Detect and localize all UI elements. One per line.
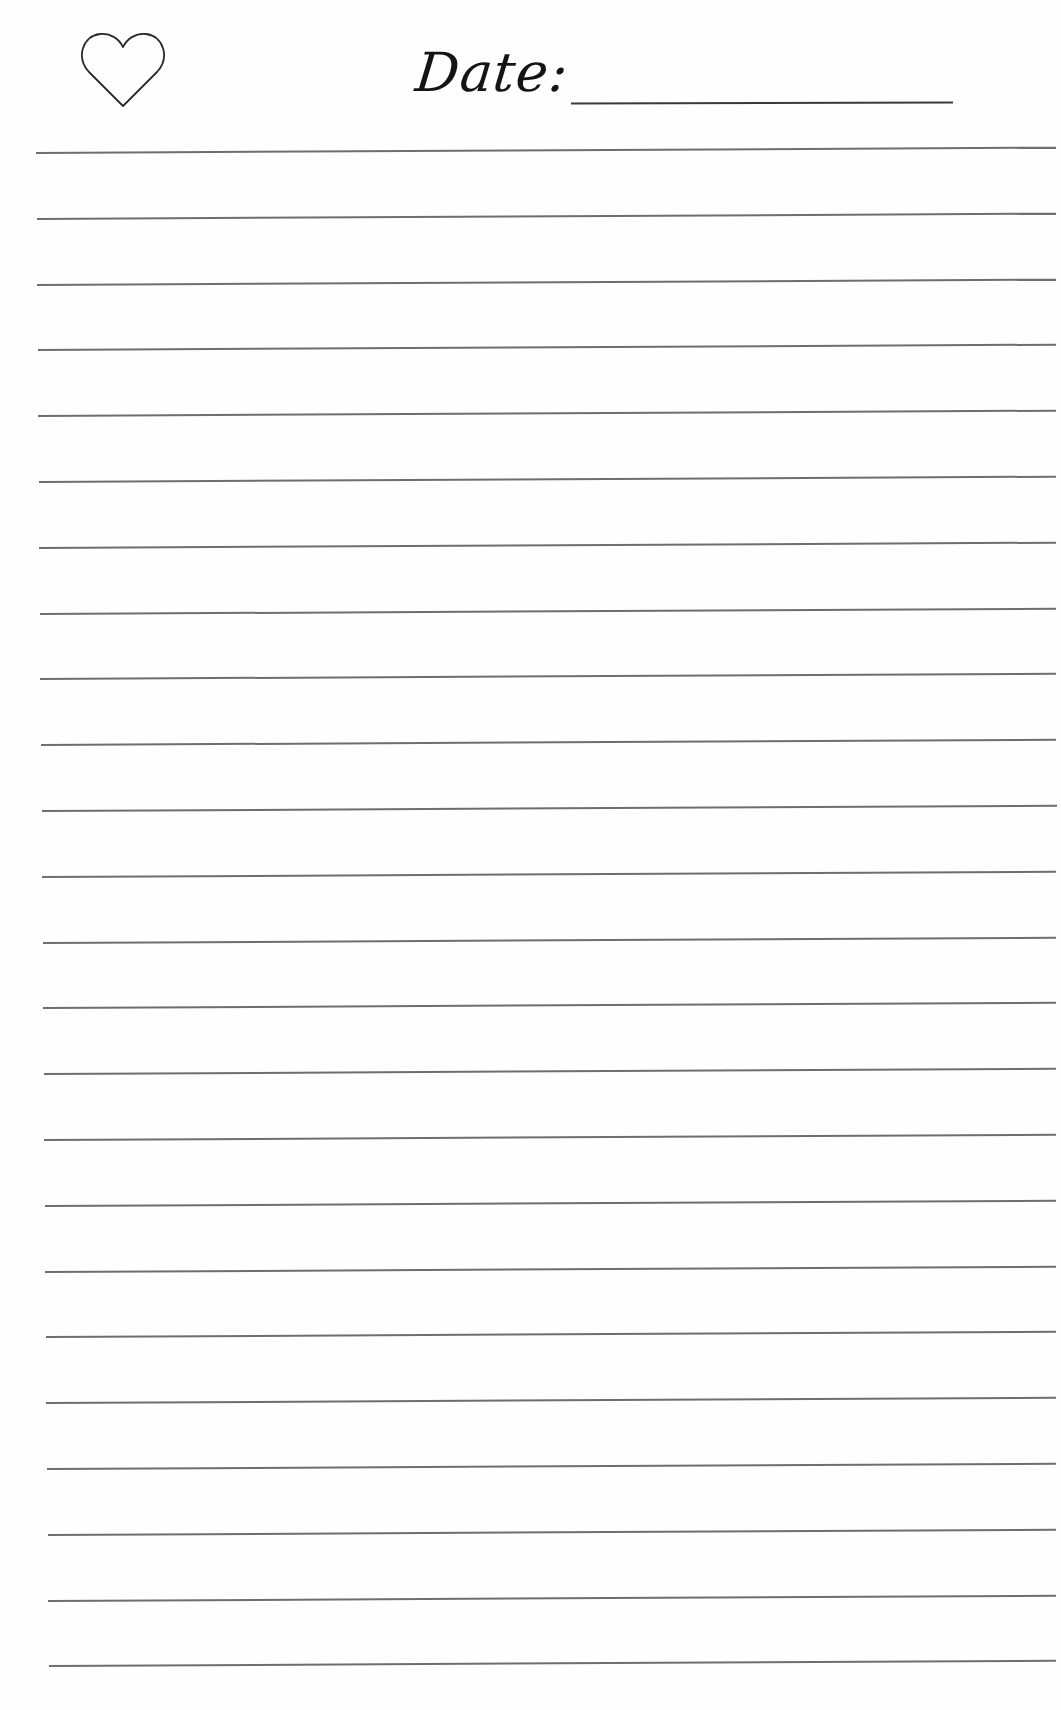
ruled-line: [43, 1002, 1056, 1009]
ruled-line: [41, 739, 1056, 746]
ruled-line: [38, 344, 1056, 351]
ruled-line: [46, 1397, 1056, 1404]
ruled-line: [40, 673, 1056, 680]
ruled-line: [40, 607, 1056, 614]
ruled-line: [48, 1529, 1056, 1536]
ruled-line: [48, 1594, 1056, 1601]
ruled-line: [44, 1068, 1056, 1075]
ruled-line: [49, 1660, 1056, 1667]
ruled-line: [43, 936, 1056, 943]
ruled-line: [47, 1463, 1056, 1470]
ruled-line: [36, 147, 1056, 154]
ruled-line: [46, 1331, 1056, 1338]
ruled-line: [39, 476, 1056, 483]
ruled-lines: [0, 0, 1061, 1710]
ruled-line: [39, 541, 1056, 548]
ruled-line: [45, 1200, 1056, 1207]
ruled-line: [42, 870, 1056, 877]
notebook-page: Date:: [0, 0, 1061, 1710]
ruled-line: [38, 410, 1056, 417]
ruled-line: [37, 212, 1056, 219]
ruled-line: [41, 805, 1055, 812]
ruled-line: [37, 278, 1056, 285]
ruled-line: [45, 1265, 1056, 1272]
ruled-line: [44, 1134, 1056, 1141]
